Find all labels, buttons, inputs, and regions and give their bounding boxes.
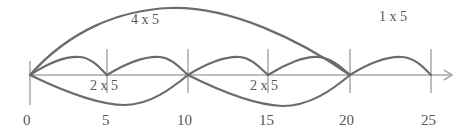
number-line-diagram: 4 x 5 1 x 5 2 x 5 2 x 5 0 5 10 15 20 25 — [0, 0, 471, 135]
label-2x5-b: 2 x 5 — [250, 78, 278, 93]
label-1x5: 1 x 5 — [379, 9, 407, 24]
tick-label-0: 0 — [23, 112, 31, 128]
tick-label-15: 15 — [259, 112, 274, 128]
jump-arc-1x5-d — [268, 57, 350, 75]
jump-arc-4x5 — [30, 8, 350, 75]
jump-arc-1x5-b — [107, 57, 188, 75]
tick-label-5: 5 — [102, 112, 110, 128]
jump-arc-1x5-e — [350, 57, 431, 75]
tick-label-25: 25 — [421, 112, 436, 128]
jump-arc-1x5-a — [30, 57, 107, 75]
tick-label-10: 10 — [177, 112, 192, 128]
jump-arc-1x5-c — [188, 57, 268, 75]
label-4x5: 4 x 5 — [131, 12, 159, 27]
label-2x5-a: 2 x 5 — [90, 78, 118, 93]
tick-label-20: 20 — [339, 112, 354, 128]
